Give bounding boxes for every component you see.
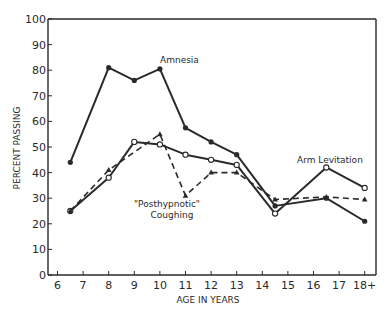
data-point-marker xyxy=(68,160,73,165)
data-point-marker xyxy=(106,167,112,172)
series-line xyxy=(70,68,364,222)
data-point-marker xyxy=(132,78,137,83)
x-tick-label: 8 xyxy=(105,279,112,292)
x-tick-label: 17 xyxy=(332,279,346,292)
data-point-marker xyxy=(362,219,367,224)
x-tick-label: 7 xyxy=(80,279,87,292)
data-point-marker xyxy=(273,203,278,208)
annotation-coughing-line2: Coughing xyxy=(151,210,194,220)
data-point-marker xyxy=(362,196,368,201)
y-tick-label: 60 xyxy=(32,115,46,128)
data-point-marker xyxy=(324,165,329,170)
series-arm-levitation xyxy=(68,139,368,216)
data-point-marker xyxy=(209,157,214,162)
x-tick-label: 18+ xyxy=(353,279,376,292)
data-point-marker xyxy=(157,66,162,71)
annotation-amnesia: Amnesia xyxy=(160,55,199,65)
data-point-marker xyxy=(157,142,162,147)
y-tick-label: 40 xyxy=(32,167,46,180)
y-axis-title: PERCENT PASSING xyxy=(12,107,22,190)
line-chart: 0102030405060708090100 67891011121314151… xyxy=(0,0,389,316)
data-point-marker xyxy=(132,139,137,144)
data-series xyxy=(68,65,368,224)
x-tick-label: 9 xyxy=(131,279,138,292)
y-tick-label: 50 xyxy=(32,141,46,154)
y-tick-label: 0 xyxy=(39,269,46,282)
series-amnesia xyxy=(68,65,368,224)
x-tick-label: 6 xyxy=(54,279,61,292)
x-tick-label: 11 xyxy=(179,279,193,292)
data-point-marker xyxy=(106,175,111,180)
y-tick-label: 90 xyxy=(32,39,46,52)
series-line xyxy=(70,142,364,214)
data-point-marker xyxy=(234,152,239,157)
data-point-marker xyxy=(234,162,239,167)
data-point-marker xyxy=(183,193,189,198)
annotation-arm-levitation: Arm Levitation xyxy=(297,155,363,165)
y-tick-label: 30 xyxy=(32,192,46,205)
y-tick-label: 20 xyxy=(32,218,46,231)
data-point-marker xyxy=(183,152,188,157)
x-axis: 6789101112131415161718+ xyxy=(54,271,376,292)
x-axis-title: AGE IN YEARS xyxy=(176,295,239,305)
y-tick-label: 80 xyxy=(32,64,46,77)
data-point-marker xyxy=(183,125,188,130)
x-tick-label: 13 xyxy=(230,279,244,292)
plot-frame xyxy=(48,19,376,275)
y-tick-label: 100 xyxy=(25,13,46,26)
x-tick-label: 16 xyxy=(307,279,321,292)
x-tick-label: 15 xyxy=(281,279,295,292)
x-tick-label: 12 xyxy=(204,279,218,292)
data-point-marker xyxy=(209,139,214,144)
x-tick-label: 10 xyxy=(153,279,167,292)
annotation-coughing-line1: "Posthypnotic" xyxy=(134,199,200,209)
x-tick-label: 14 xyxy=(255,279,269,292)
y-tick-label: 70 xyxy=(32,90,46,103)
data-point-marker xyxy=(362,185,367,190)
data-point-marker xyxy=(157,131,163,136)
y-tick-label: 10 xyxy=(32,243,46,256)
data-point-marker xyxy=(106,65,111,70)
data-point-marker xyxy=(273,211,278,216)
